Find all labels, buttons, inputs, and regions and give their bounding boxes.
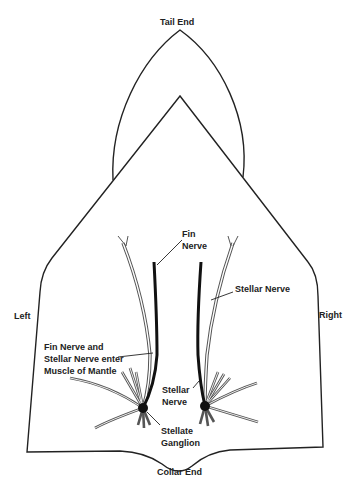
muscle-entry-label-line3: Muscle of Mantle	[44, 365, 124, 377]
fin-nerve-label-line2: Nerve	[182, 240, 207, 252]
stellar-nerve-center-line1: Stellar	[162, 384, 190, 396]
stellate-ganglion-line1: Stellate	[161, 425, 200, 437]
collar-end-label: Collar End	[157, 466, 202, 478]
stellar-nerve-center-label: Stellar Nerve	[162, 384, 190, 408]
right-nerve-system	[198, 236, 258, 426]
left-nerve-system	[70, 236, 157, 428]
right-label: Right	[319, 309, 342, 321]
left-fin-nerve	[143, 262, 157, 408]
muscle-entry-label: Fin Nerve and Stellar Nerve enter Muscle…	[44, 341, 124, 377]
right-stellate-ganglion	[200, 401, 210, 411]
muscle-entry-label-line2: Stellar Nerve enter	[44, 353, 124, 365]
stellar-nerve-right-label: Stellar Nerve	[235, 283, 290, 295]
stellate-ganglion-line2: Ganglion	[161, 437, 200, 449]
fin-outline	[113, 30, 244, 180]
fin-nerve-label: Fin Nerve	[182, 228, 207, 252]
stellate-ganglion-label: Stellate Ganglion	[161, 425, 200, 449]
squid-mantle-diagram	[0, 0, 356, 491]
tail-end-label: Tail End	[160, 16, 194, 28]
fin-nerve-label-line1: Fin	[182, 228, 207, 240]
left-label: Left	[14, 310, 31, 322]
left-stellate-ganglion	[138, 403, 148, 413]
stellar-nerve-center-line2: Nerve	[162, 396, 190, 408]
muscle-entry-label-line1: Fin Nerve and	[44, 341, 124, 353]
